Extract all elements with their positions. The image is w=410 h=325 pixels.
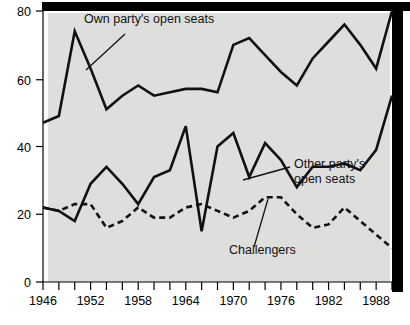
frame-top-bar — [42, 2, 410, 11]
x-tick-label-1976: 1976 — [267, 294, 295, 308]
annotation-own-party-open-seats: Own party's open seats — [84, 12, 214, 26]
annotation-other-party-open-seats-line2: open seats — [294, 172, 355, 186]
plot-area-background — [48, 13, 390, 282]
x-tick-label-1964: 1964 — [172, 294, 200, 308]
x-axis-ticks — [43, 282, 392, 290]
chart-figure: 80 60 40 20 0 — [0, 0, 410, 325]
y-tick-label-0: 0 — [24, 276, 31, 290]
y-tick-label-20: 20 — [17, 208, 31, 222]
y-axis-ticks — [36, 11, 43, 282]
x-tick-label-1988: 1988 — [362, 294, 390, 308]
x-tick-label-1952: 1952 — [77, 294, 105, 308]
frame-right-bar — [392, 2, 403, 292]
annotation-other-party-open-seats-line1: Other party's — [294, 157, 365, 171]
y-tick-label-80: 80 — [17, 5, 31, 19]
line-chart: 80 60 40 20 0 — [0, 0, 410, 325]
x-tick-label-1982: 1982 — [315, 294, 343, 308]
annotation-challengers: Challengers — [229, 243, 296, 257]
y-tick-label-40: 40 — [17, 141, 31, 155]
x-tick-label-1970: 1970 — [219, 294, 247, 308]
x-tick-label-1946: 1946 — [29, 294, 57, 308]
x-tick-label-1958: 1958 — [124, 294, 152, 308]
y-tick-label-60: 60 — [17, 74, 31, 88]
